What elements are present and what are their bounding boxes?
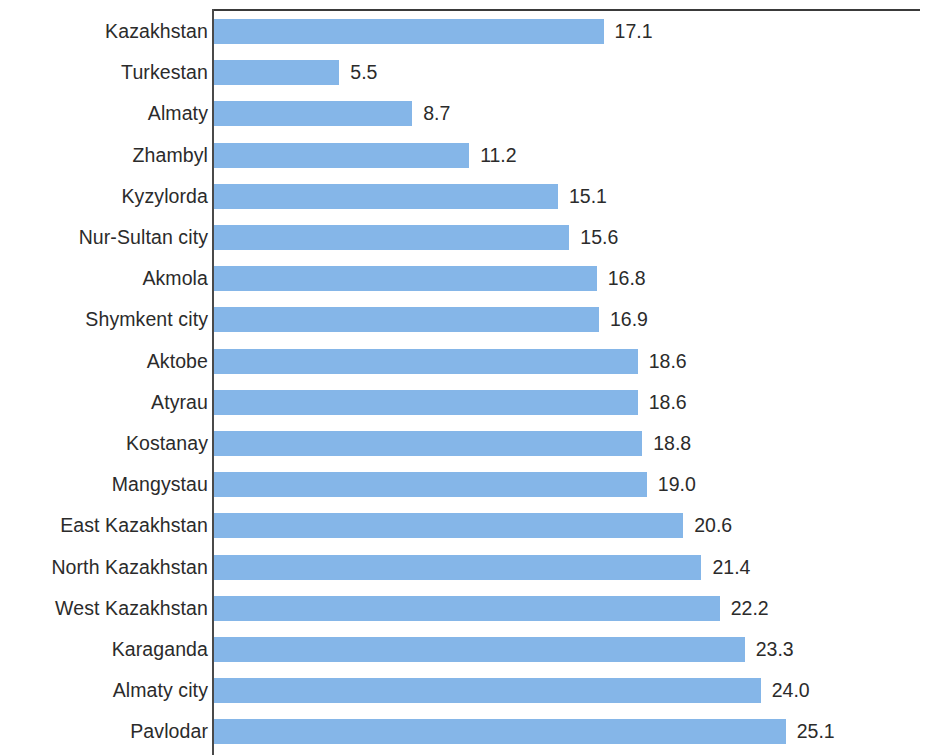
bar bbox=[214, 513, 683, 538]
bar-row: Nur-Sultan city15.6 bbox=[0, 217, 929, 258]
bar-value-label: 20.6 bbox=[694, 505, 732, 546]
category-label: Akmola bbox=[142, 258, 208, 299]
bar-track bbox=[214, 60, 339, 85]
bar-track bbox=[214, 266, 597, 291]
category-label: Kostanay bbox=[126, 423, 208, 464]
bar bbox=[214, 431, 642, 456]
bar-track bbox=[214, 472, 647, 497]
category-label: Atyrau bbox=[151, 382, 208, 423]
bar bbox=[214, 307, 599, 332]
bar-row: Atyrau18.6 bbox=[0, 382, 929, 423]
bar-track bbox=[214, 143, 469, 168]
bar-value-label: 19.0 bbox=[658, 464, 696, 505]
bar-row: West Kazakhstan22.2 bbox=[0, 588, 929, 629]
category-label: Kyzylorda bbox=[121, 176, 208, 217]
bar bbox=[214, 390, 638, 415]
bar-track bbox=[214, 390, 638, 415]
bars-layer: Kazakhstan17.1Turkestan5.5Almaty8.7Zhamb… bbox=[0, 0, 929, 755]
bar bbox=[214, 678, 761, 703]
bar bbox=[214, 349, 638, 374]
bar-value-label: 25.1 bbox=[797, 711, 835, 752]
bar-value-label: 16.8 bbox=[608, 258, 646, 299]
bar-row: Akmola16.8 bbox=[0, 258, 929, 299]
bar-track bbox=[214, 349, 638, 374]
bar bbox=[214, 555, 701, 580]
bar-row: East Kazakhstan20.6 bbox=[0, 505, 929, 546]
bar bbox=[214, 101, 412, 126]
bar-value-label: 18.6 bbox=[649, 341, 687, 382]
bar-value-label: 24.0 bbox=[772, 670, 810, 711]
category-label: Shymkent city bbox=[85, 299, 208, 340]
bar bbox=[214, 637, 745, 662]
bar bbox=[214, 184, 558, 209]
bar-track bbox=[214, 596, 720, 621]
bar bbox=[214, 266, 597, 291]
bar-row: Kostanay18.8 bbox=[0, 423, 929, 464]
bar bbox=[214, 225, 569, 250]
bar-track bbox=[214, 19, 604, 44]
bar-row: Karaganda23.3 bbox=[0, 629, 929, 670]
bar-track bbox=[214, 307, 599, 332]
bar-value-label: 22.2 bbox=[731, 588, 769, 629]
category-label: Nur-Sultan city bbox=[79, 217, 208, 258]
category-label: West Kazakhstan bbox=[55, 588, 208, 629]
bar-row: North Kazakhstan21.4 bbox=[0, 547, 929, 588]
bar-value-label: 18.6 bbox=[649, 382, 687, 423]
category-label: Karaganda bbox=[112, 629, 208, 670]
bar-row: Kyzylorda15.1 bbox=[0, 176, 929, 217]
bar-track bbox=[214, 637, 745, 662]
bar-track bbox=[214, 555, 701, 580]
category-label: Kazakhstan bbox=[105, 11, 208, 52]
category-label: Almaty city bbox=[113, 670, 208, 711]
bar-value-label: 5.5 bbox=[350, 52, 377, 93]
bar bbox=[214, 143, 469, 168]
bar-track bbox=[214, 678, 761, 703]
bar-track bbox=[214, 513, 683, 538]
bar bbox=[214, 60, 339, 85]
bar-chart-figure: Kazakhstan17.1Turkestan5.5Almaty8.7Zhamb… bbox=[0, 0, 929, 755]
category-label: Turkestan bbox=[121, 52, 208, 93]
bar-value-label: 15.6 bbox=[580, 217, 618, 258]
bar-row: Turkestan5.5 bbox=[0, 52, 929, 93]
bar-track bbox=[214, 225, 569, 250]
bar-row: Zhambyl11.2 bbox=[0, 135, 929, 176]
category-label: Pavlodar bbox=[130, 711, 208, 752]
bar-value-label: 15.1 bbox=[569, 176, 607, 217]
bar-row: Shymkent city16.9 bbox=[0, 299, 929, 340]
bar-value-label: 8.7 bbox=[423, 93, 450, 134]
bar-track bbox=[214, 101, 412, 126]
bar-value-label: 23.3 bbox=[756, 629, 794, 670]
category-label: North Kazakhstan bbox=[51, 547, 208, 588]
category-label: Aktobe bbox=[147, 341, 208, 382]
bar-row: Almaty8.7 bbox=[0, 93, 929, 134]
bar-row: Kazakhstan17.1 bbox=[0, 11, 929, 52]
bar bbox=[214, 596, 720, 621]
bar-row: Almaty city24.0 bbox=[0, 670, 929, 711]
bar bbox=[214, 719, 786, 744]
category-label: Mangystau bbox=[112, 464, 208, 505]
bar bbox=[214, 19, 604, 44]
category-label: East Kazakhstan bbox=[60, 505, 208, 546]
category-label: Almaty bbox=[148, 93, 208, 134]
bar-value-label: 21.4 bbox=[712, 547, 750, 588]
bar-value-label: 16.9 bbox=[610, 299, 648, 340]
bar-row: Aktobe18.6 bbox=[0, 341, 929, 382]
bar-track bbox=[214, 431, 642, 456]
bar-row: Mangystau19.0 bbox=[0, 464, 929, 505]
bar-row: Pavlodar25.1 bbox=[0, 711, 929, 752]
bar-value-label: 17.1 bbox=[615, 11, 653, 52]
bar-track bbox=[214, 184, 558, 209]
bar-value-label: 18.8 bbox=[653, 423, 691, 464]
bar-value-label: 11.2 bbox=[480, 135, 517, 176]
category-label: Zhambyl bbox=[133, 135, 208, 176]
bar bbox=[214, 472, 647, 497]
bar-track bbox=[214, 719, 786, 744]
